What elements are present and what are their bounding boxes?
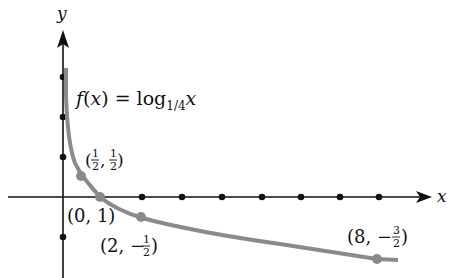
label-prefix: (8, − (347, 226, 392, 247)
point-one-zero (95, 192, 105, 202)
label-two-neg-half: (2, − 1 2 ) (100, 233, 158, 259)
function-label: f(x) = log1/4x (74, 87, 197, 113)
frac-den: 2 (92, 160, 99, 173)
label-zero-one: (0, 1) (67, 205, 115, 226)
x-tick (298, 194, 305, 201)
x-tick (219, 194, 226, 201)
x-tick (337, 194, 344, 201)
frac-num: 1 (110, 147, 117, 160)
point-half-half (76, 171, 86, 181)
frac-num: 1 (143, 233, 150, 246)
x-tick (179, 194, 186, 201)
point-eight-neg-three-halves (372, 254, 382, 264)
frac-num: 1 (92, 147, 99, 160)
point-two-neg-half (136, 212, 146, 222)
paren-close: ) (117, 150, 124, 170)
paren-open: ( (85, 150, 92, 170)
frac-den: 2 (110, 160, 117, 173)
eq-log: ) = log (101, 87, 166, 109)
x-tick (259, 194, 266, 201)
label-prefix: (2, − (100, 235, 145, 256)
y-axis-label: y (56, 3, 67, 23)
comma: , (100, 150, 105, 170)
y-tick (60, 234, 67, 241)
frac-num: 3 (393, 224, 400, 237)
paren-close: ) (151, 235, 158, 256)
label-half-half: ( 1 2 , 1 2 ) (85, 147, 124, 173)
paren-close: ) (401, 226, 408, 247)
paren-open: ( (83, 87, 90, 109)
frac-den: 2 (143, 246, 150, 259)
function-var: x (90, 87, 101, 109)
log-arg: x (186, 87, 197, 109)
x-axis-label: x (437, 186, 447, 206)
x-tick (376, 194, 383, 201)
log-graph: x y f(x) = log1/4x ( 1 2 , 1 2 (0, 0, 450, 278)
label-eight-neg-three-halves: (8, − 3 2 ) (347, 224, 408, 250)
log-base: 1/4 (166, 99, 186, 113)
frac-den: 2 (393, 237, 400, 250)
x-tick (139, 194, 146, 201)
y-tick (60, 154, 67, 161)
